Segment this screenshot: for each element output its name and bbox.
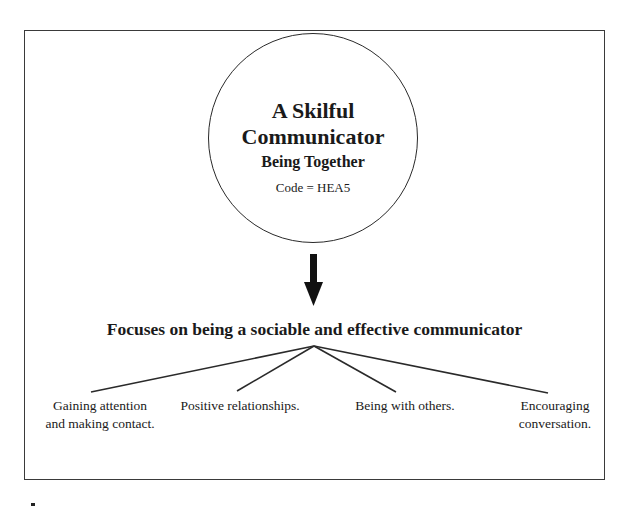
branch-line1: Being with others. [345,397,465,415]
branch-gaining-attention: Gaining attention and making contact. [30,397,170,433]
page-mark [31,503,35,506]
branch-line1: Gaining attention [30,397,170,415]
branch-being-with-others: Being with others. [345,397,465,415]
branch-line2: and making contact. [30,415,170,433]
branch-positive-relationships: Positive relationships. [170,397,310,415]
branch-line1: Encouraging [505,397,605,415]
branch-encouraging-conversation: Encouraging conversation. [505,397,605,433]
branch-line2: conversation. [505,415,605,433]
focus-statement: Focuses on being a sociable and effectiv… [0,319,629,340]
branch-line1: Positive relationships. [170,397,310,415]
down-arrow-icon [304,254,323,306]
branch-lines [91,346,548,393]
